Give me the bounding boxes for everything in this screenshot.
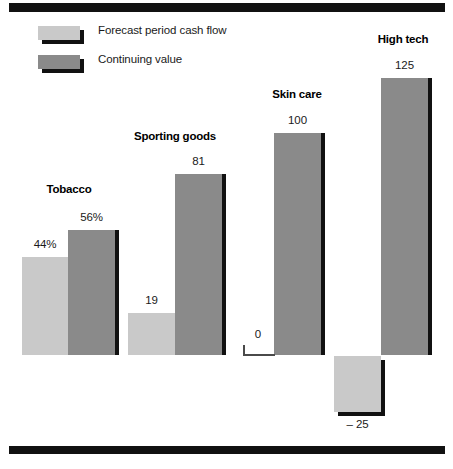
bar-hightech-forecast	[334, 356, 381, 412]
bar-group-high-tech: High tech 125 – 25	[0, 0, 453, 469]
bar-value-hightech-forecast: – 25	[334, 418, 381, 430]
group-title-high-tech: High tech	[356, 33, 450, 45]
bar-hightech-continuing	[381, 78, 428, 355]
chart-figure: Forecast period cash flow Continuing val…	[0, 0, 453, 469]
plot-area: Tobacco 44% 56% Sporting goods 19 81 Ski…	[0, 0, 453, 469]
bar-value-hightech-continuing: 125	[381, 59, 428, 71]
